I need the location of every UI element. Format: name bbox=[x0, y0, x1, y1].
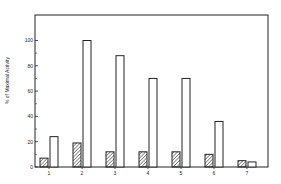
x-tick-label: 6 bbox=[213, 170, 216, 176]
y-tick-label: 0 bbox=[30, 164, 33, 170]
y-tick-label: 20 bbox=[27, 139, 33, 145]
bar-hatched bbox=[238, 161, 246, 167]
bar-hatched bbox=[40, 158, 48, 167]
bar-hatched bbox=[139, 152, 147, 167]
bar-hatched bbox=[73, 143, 81, 167]
bar-hatched bbox=[205, 154, 213, 167]
x-tick-label: 1 bbox=[48, 170, 51, 176]
bar-hatched bbox=[172, 152, 180, 167]
x-tick-label: 7 bbox=[246, 170, 249, 176]
bar-open bbox=[116, 56, 124, 167]
x-tick-label: 3 bbox=[114, 170, 117, 176]
bar-open bbox=[215, 121, 223, 167]
x-tick-label: 4 bbox=[147, 170, 150, 176]
y-tick-label: 40 bbox=[27, 113, 33, 119]
y-tick-label: 80 bbox=[27, 63, 33, 69]
bar-open bbox=[50, 137, 58, 167]
x-tick-label: 5 bbox=[180, 170, 183, 176]
bar-chart: 0204060801001234567 bbox=[0, 0, 281, 184]
bar-open bbox=[83, 41, 91, 168]
bar-open bbox=[149, 78, 157, 167]
bar-open bbox=[248, 162, 256, 167]
y-tick-label: 60 bbox=[27, 88, 33, 94]
y-tick-label: 100 bbox=[25, 37, 34, 43]
bar-open bbox=[182, 78, 190, 167]
bar-hatched bbox=[106, 152, 114, 167]
x-tick-label: 2 bbox=[81, 170, 84, 176]
